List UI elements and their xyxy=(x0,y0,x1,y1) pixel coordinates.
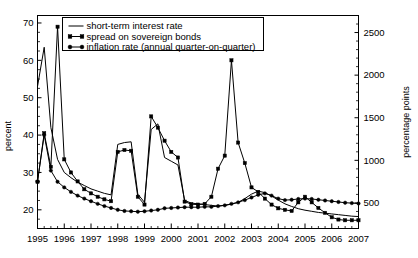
x-axis-labels: 1995199619971998199920002001200220032004… xyxy=(27,233,369,244)
series-marker xyxy=(42,133,45,136)
series-marker xyxy=(116,208,119,211)
series-marker xyxy=(123,148,126,151)
chart-svg: 203040506070 5001000150020002500 1995199… xyxy=(0,0,418,258)
x-axis-tick-label: 2000 xyxy=(161,233,182,244)
series-marker xyxy=(303,197,306,200)
series-marker xyxy=(263,197,266,200)
series-marker xyxy=(130,149,133,152)
series-marker xyxy=(250,196,253,199)
series-marker xyxy=(116,150,119,153)
series-marker xyxy=(136,195,139,198)
series-marker xyxy=(143,203,146,206)
series-line-0 xyxy=(38,47,359,216)
series-marker xyxy=(270,194,273,197)
series-marker xyxy=(310,197,313,200)
chart-container: 203040506070 5001000150020002500 1995199… xyxy=(0,0,418,258)
y-axis-right-title: percentage points xyxy=(401,86,411,158)
series-marker xyxy=(136,210,139,213)
series-marker xyxy=(230,202,233,205)
series-marker xyxy=(129,210,132,213)
legend-swatch-marker xyxy=(68,35,72,39)
series-marker xyxy=(63,186,66,189)
series-marker xyxy=(277,197,280,200)
series-marker xyxy=(163,139,166,142)
x-axis-tick-label: 1996 xyxy=(54,233,75,244)
series-marker xyxy=(317,198,320,201)
series-marker xyxy=(330,200,333,203)
series-marker xyxy=(216,204,219,207)
series-marker xyxy=(243,162,246,165)
series-marker xyxy=(223,154,226,157)
series-marker xyxy=(237,141,240,144)
x-axis-tick-label: 1997 xyxy=(80,233,101,244)
series-marker xyxy=(210,195,213,198)
series-marker xyxy=(156,208,159,211)
series-marker xyxy=(89,200,92,203)
series-marker xyxy=(76,180,79,183)
series-marker xyxy=(96,195,99,198)
series-marker xyxy=(56,180,59,183)
series-marker xyxy=(36,180,39,183)
y-axis-right-tick-label: 2000 xyxy=(364,69,385,80)
series-marker xyxy=(83,188,86,191)
series-marker xyxy=(297,197,300,200)
series-marker xyxy=(323,211,326,214)
y-axis-left-tick-label: 60 xyxy=(23,55,34,66)
series-marker xyxy=(96,202,99,205)
x-axis-tick-label: 1998 xyxy=(107,233,128,244)
x-axis-tick-label: 2004 xyxy=(268,233,289,244)
series-marker xyxy=(183,200,186,203)
series-marker xyxy=(123,209,126,212)
series-marker xyxy=(176,206,179,209)
y-axis-left-tick-label: 30 xyxy=(23,167,34,178)
x-axis-tick-label: 2002 xyxy=(214,233,235,244)
chart-legend: short-term interest ratespread on sovere… xyxy=(63,18,264,53)
series-marker xyxy=(203,205,206,208)
series-marker xyxy=(323,199,326,202)
legend-swatch-marker xyxy=(80,35,84,39)
legend-swatch-marker xyxy=(80,45,84,49)
y-axis-right-tick-label: 2500 xyxy=(364,27,385,38)
series-marker xyxy=(256,193,259,196)
series-marker xyxy=(49,169,52,172)
series-marker xyxy=(109,200,112,203)
series-marker xyxy=(69,171,72,174)
series-marker xyxy=(263,192,266,195)
series-marker xyxy=(150,115,153,118)
series-marker xyxy=(69,190,72,193)
series-marker xyxy=(243,198,246,201)
series-marker xyxy=(317,206,320,209)
x-axis-tick-label: 2001 xyxy=(187,233,208,244)
x-axis-tick-label: 1995 xyxy=(27,233,48,244)
y-axis-left-labels: 203040506070 xyxy=(23,17,34,215)
series-marker xyxy=(223,204,226,207)
x-axis-tick-label: 2006 xyxy=(321,233,342,244)
series-marker xyxy=(290,209,293,212)
series-marker xyxy=(103,198,106,201)
y-axis-left-tick-label: 70 xyxy=(23,17,34,28)
series-marker xyxy=(277,207,280,210)
series-marker xyxy=(149,209,152,212)
series-marker xyxy=(103,204,106,207)
series-marker xyxy=(163,207,166,210)
y-axis-right-tick-label: 500 xyxy=(364,197,380,208)
series-marker xyxy=(63,158,66,161)
series-marker xyxy=(236,201,239,204)
y-axis-right-labels: 5001000150020002500 xyxy=(364,27,385,208)
series-marker xyxy=(297,201,300,204)
series-marker xyxy=(143,210,146,213)
series-marker xyxy=(283,198,286,201)
series-marker xyxy=(337,218,340,221)
series-marker xyxy=(210,205,213,208)
series-marker xyxy=(283,208,286,211)
y-axis-left-tick-label: 20 xyxy=(23,204,34,215)
series-layer xyxy=(36,25,360,222)
series-marker xyxy=(176,156,179,159)
y-axis-left-ticks xyxy=(38,23,42,219)
x-axis-ticks xyxy=(38,224,359,229)
legend-swatch-marker xyxy=(68,45,72,49)
series-marker xyxy=(290,198,293,201)
series-marker xyxy=(344,219,347,222)
series-marker xyxy=(109,206,112,209)
x-axis-tick-label: 2007 xyxy=(348,233,369,244)
